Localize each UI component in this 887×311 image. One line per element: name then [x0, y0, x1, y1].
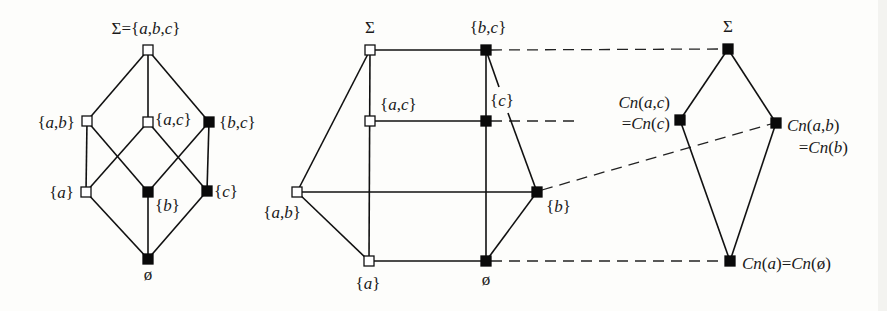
filled-square-node-icon [723, 44, 733, 54]
lattice-edge [369, 50, 370, 261]
node-label: {b,c} [470, 18, 507, 37]
node-label: Cn(a,c) [619, 93, 670, 112]
node-label: {a,c} [155, 110, 192, 129]
mapping-dashed-line [491, 49, 722, 50]
mapping-dashed-lines [491, 49, 771, 261]
filled-square-node-icon [143, 187, 153, 197]
node-label: Σ [365, 18, 375, 37]
lattice-edge [486, 192, 537, 261]
filled-square-node-icon [204, 117, 214, 127]
node-label: {c} [490, 91, 514, 110]
open-square-node-icon [143, 45, 153, 55]
mapping-dashed-line [542, 124, 771, 190]
node-label: Cn(a)=Cn(ø) [742, 254, 831, 273]
node-label: {a,b} [37, 113, 75, 132]
lattice-edge [680, 120, 730, 261]
open-square-node-icon [365, 45, 375, 55]
open-square-node-icon [81, 187, 91, 197]
node-label: Σ [723, 17, 733, 36]
open-square-node-icon [82, 116, 92, 126]
filled-square-node-icon [725, 256, 735, 266]
open-square-node-icon [364, 256, 374, 266]
open-square-node-icon [143, 117, 153, 127]
filled-square-node-icon [675, 115, 685, 125]
filled-square-node-icon [532, 187, 542, 197]
lattice-diagram-canvas: Σ={a,b,c}{a,b}{a,c}{b,c}{a}{b}{c}øΣ{b,c}… [0, 0, 887, 311]
lattice-edge [86, 121, 87, 192]
filled-square-node-icon [481, 116, 491, 126]
lattice-edges [86, 49, 776, 261]
node-label: {c} [214, 182, 238, 201]
lattice-edge [297, 192, 369, 261]
open-square-node-icon [292, 187, 302, 197]
lattice-edge [728, 49, 776, 123]
node-label: =Cn(c) [622, 114, 670, 133]
page-edge-shadow [878, 0, 887, 311]
node-label: {a,b} [263, 203, 301, 222]
node-label: Cn(a,b) [787, 116, 839, 135]
lattice-nodes [81, 44, 781, 266]
node-label: ø [144, 265, 153, 284]
lattice-edge [87, 50, 148, 121]
filled-square-node-icon [481, 256, 491, 266]
node-label: {b,c} [219, 113, 256, 132]
open-square-node-icon [365, 116, 375, 126]
node-label: {a} [49, 183, 74, 202]
lattice-figure: Σ={a,b,c}{a,b}{a,c}{b,c}{a}{b}{c}øΣ{b,c}… [0, 0, 887, 311]
node-label: {a} [356, 274, 381, 293]
node-label: =Cn(b) [799, 138, 848, 157]
lattice-edge [207, 122, 209, 191]
node-label: {b} [546, 197, 571, 216]
lattice-edge [297, 50, 370, 192]
filled-square-node-icon [481, 45, 491, 55]
node-label: ø [482, 270, 491, 289]
filled-square-node-icon [143, 254, 153, 264]
node-label: {b} [155, 196, 180, 215]
node-label: {a,c} [380, 95, 417, 114]
node-label: Σ={a,b,c} [112, 19, 181, 38]
lattice-edge [86, 192, 148, 259]
filled-square-node-icon [202, 186, 212, 196]
lattice-edge [730, 123, 776, 261]
lattice-edge [680, 49, 728, 120]
lattice-edge [508, 113, 537, 192]
filled-square-node-icon [771, 118, 781, 128]
